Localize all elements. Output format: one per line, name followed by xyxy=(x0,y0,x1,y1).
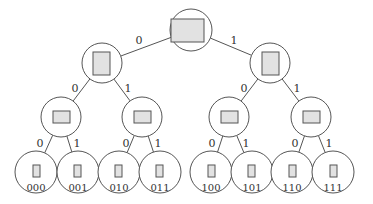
tree-node-1 xyxy=(250,43,290,83)
tree-svg: 000001010011100101110111 01010101010101 xyxy=(0,0,373,204)
leaf-label: 010 xyxy=(109,182,128,193)
edge-label: 0 xyxy=(136,34,143,47)
leaf-label: 100 xyxy=(201,182,220,193)
tree-node-110: 110 xyxy=(271,151,313,193)
tree-node-01 xyxy=(122,97,162,137)
leaf-label: 110 xyxy=(282,182,301,193)
edge-label: 0 xyxy=(241,82,248,95)
edge-11-111 xyxy=(318,136,325,153)
edge-label: 1 xyxy=(326,137,333,150)
tree-node-101: 101 xyxy=(231,151,273,193)
edge-label: 1 xyxy=(231,34,238,47)
edge-label: 0 xyxy=(37,137,44,150)
tree-node-011: 011 xyxy=(139,151,181,193)
edge-00-000 xyxy=(45,135,53,153)
tree-node-111: 111 xyxy=(312,151,354,193)
tree-node-00 xyxy=(41,97,81,137)
edge-11-110 xyxy=(299,136,305,152)
leaf-label: 101 xyxy=(242,182,261,193)
node-box xyxy=(156,165,163,177)
tree-node-root xyxy=(170,9,212,51)
tree-node-0 xyxy=(82,43,122,83)
tree-node-11 xyxy=(291,97,331,137)
node-box xyxy=(53,111,70,123)
edge-label: 0 xyxy=(292,137,299,150)
edge-00-001 xyxy=(67,136,72,152)
tree-nodes: 000001010011100101110111 xyxy=(15,9,354,193)
edge-label: 1 xyxy=(74,137,81,150)
edge-label: 1 xyxy=(155,137,162,150)
leaf-label: 011 xyxy=(150,182,169,193)
node-box xyxy=(134,111,151,123)
edge-10-100 xyxy=(218,136,223,152)
node-box xyxy=(208,165,215,177)
node-box xyxy=(303,111,320,123)
edge-label: 0 xyxy=(209,137,216,150)
node-box xyxy=(74,165,81,177)
edge-label: 0 xyxy=(123,137,130,150)
node-box xyxy=(262,52,279,75)
edge-root-0 xyxy=(121,37,172,56)
edge-label: 1 xyxy=(243,137,250,150)
tree-node-100: 100 xyxy=(190,151,232,193)
tree-labels: 01010101010101 xyxy=(37,34,333,150)
tree-node-001: 001 xyxy=(57,151,99,193)
node-box xyxy=(33,165,40,177)
leaf-label: 000 xyxy=(26,182,45,193)
node-box xyxy=(330,165,337,177)
node-box xyxy=(248,165,255,177)
node-box xyxy=(289,165,296,177)
leaf-label: 001 xyxy=(68,182,87,193)
edge-label: 0 xyxy=(72,82,79,95)
edge-01-011 xyxy=(148,136,153,152)
edge-label: 1 xyxy=(294,82,301,95)
leaf-label: 111 xyxy=(323,182,342,193)
tree-node-010: 010 xyxy=(98,151,140,193)
node-box xyxy=(171,19,204,42)
tree-node-000: 000 xyxy=(15,151,57,193)
node-box xyxy=(221,111,238,123)
edge-label: 1 xyxy=(125,82,132,95)
tree-node-10 xyxy=(209,97,249,137)
binary-tree-diagram: 000001010011100101110111 01010101010101 xyxy=(0,0,373,204)
node-box xyxy=(93,52,110,75)
node-box xyxy=(115,165,122,177)
